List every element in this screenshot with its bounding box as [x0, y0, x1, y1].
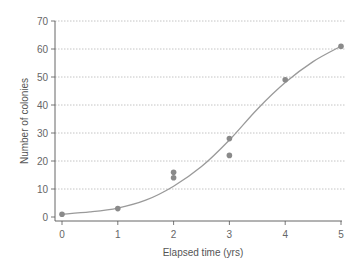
y-axis-title: Number of colonies [19, 78, 30, 164]
colony-growth-chart: 010203040506070 012345 Elapsed time (yrs… [0, 0, 361, 272]
gridlines [55, 21, 345, 189]
y-tick-label: 40 [37, 100, 49, 111]
y-tick-label: 10 [37, 184, 49, 195]
data-point [227, 136, 233, 142]
y-tick-label: 30 [37, 128, 49, 139]
y-tick-label: 20 [37, 156, 49, 167]
x-tick-label: 1 [115, 229, 121, 240]
data-point [227, 153, 233, 159]
y-axis-ticks: 010203040506070 [37, 16, 55, 223]
x-tick-label: 2 [171, 229, 177, 240]
x-tick-label: 4 [282, 229, 288, 240]
y-tick-label: 70 [37, 16, 49, 27]
y-tick-label: 0 [42, 212, 48, 223]
axes [55, 21, 342, 221]
data-point [171, 169, 177, 175]
x-axis-ticks: 012345 [59, 221, 344, 240]
x-tick-label: 3 [227, 229, 233, 240]
x-tick-label: 0 [59, 229, 65, 240]
data-point [59, 211, 65, 217]
data-point [171, 175, 177, 181]
x-axis-title: Elapsed time (yrs) [163, 247, 244, 258]
data-point [282, 77, 288, 83]
y-tick-label: 50 [37, 72, 49, 83]
y-tick-label: 60 [37, 44, 49, 55]
data-point [115, 206, 121, 212]
x-tick-label: 5 [338, 229, 344, 240]
data-point [338, 43, 344, 49]
